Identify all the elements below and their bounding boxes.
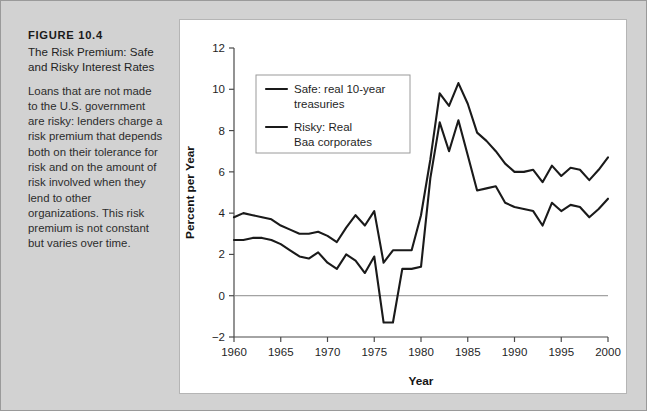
figure-number-label: FIGURE 10.4	[28, 29, 163, 41]
x-tick-label: 1995	[548, 346, 574, 358]
x-tick-label: 1990	[502, 346, 528, 358]
chart-legend: Safe: real 10-yeartreasuriesRisky: RealB…	[256, 75, 410, 153]
figure-caption-column: FIGURE 10.4 The Risk Premium: Safe and R…	[28, 29, 163, 252]
y-tick-label: 6	[219, 166, 225, 178]
legend-label-line2: Baa corporates	[294, 136, 372, 148]
figure-container: FIGURE 10.4 The Risk Premium: Safe and R…	[0, 0, 647, 411]
x-tick-label: 1965	[268, 346, 294, 358]
figure-title: The Risk Premium: Safe and Risky Interes…	[28, 44, 163, 75]
x-tick-label: 1960	[221, 346, 247, 358]
x-tick-label: 1980	[408, 346, 434, 358]
x-tick-label: 1985	[455, 346, 481, 358]
legend-label-line2: treasuries	[294, 98, 345, 110]
x-tick-label: 1970	[315, 346, 341, 358]
y-tick-label: 4	[219, 207, 226, 219]
y-tick-label: 12	[212, 42, 225, 54]
x-axis-title: Year	[409, 374, 434, 388]
figure-description: Loans that are not made to the U.S. gove…	[28, 84, 163, 252]
y-tick-label: 2	[219, 248, 225, 260]
legend-label-line1: Risky: Real	[294, 121, 352, 133]
y-tick-label: −2	[212, 331, 225, 343]
y-axis-title: Percent per Year	[183, 146, 197, 239]
line-chart: −202468101219601965197019751980198519901…	[180, 20, 628, 395]
y-tick-label: 10	[212, 83, 225, 95]
y-tick-label: 0	[219, 290, 225, 302]
chart-panel: −202468101219601965197019751980198519901…	[179, 19, 627, 394]
x-tick-label: 2000	[595, 346, 621, 358]
legend-label-line1: Safe: real 10-year	[294, 83, 386, 95]
x-tick-label: 1975	[361, 346, 387, 358]
y-tick-label: 8	[219, 125, 225, 137]
